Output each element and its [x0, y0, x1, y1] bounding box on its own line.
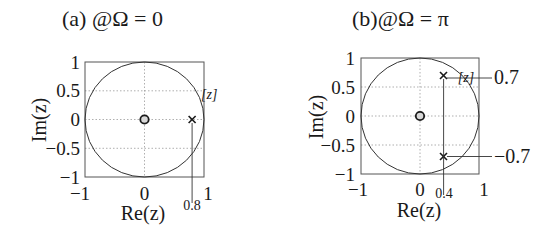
- svg-text:0: 0: [346, 106, 356, 127]
- panel-a-plot: [z] 1 0.5 0 −0.5 −1 −1 0 1 0.8 Re(z) Im(…: [28, 52, 217, 225]
- panel-a-ylabel: Im(z): [28, 98, 51, 142]
- svg-text:1: 1: [71, 52, 81, 73]
- panel-b-plot: [z] 0.7 −0.7 1 0.5 0 −0.5 −1 −1 0 1 0.4 …: [305, 48, 530, 222]
- panel-a-xlabel: Re(z): [121, 202, 165, 225]
- svg-text:0.5: 0.5: [56, 80, 80, 101]
- panel-b-pole-im-neg-annotation: −0.7: [494, 145, 530, 167]
- panel-b-xticks: −1 0 1: [348, 179, 489, 200]
- svg-text:0: 0: [71, 109, 81, 130]
- svg-text:−0.5: −0.5: [46, 138, 80, 159]
- svg-text:1: 1: [203, 183, 213, 204]
- panel-a-plane-label: [z]: [201, 87, 217, 102]
- panel-b-leader-lines: [444, 78, 492, 195]
- panel-b-pole-im-pos-annotation: 0.7: [494, 66, 519, 88]
- pole-zero-plots: [z] 1 0.5 0 −0.5 −1 −1 0 1 0.8 Re(z) Im(…: [0, 0, 541, 246]
- svg-text:0.5: 0.5: [331, 77, 355, 98]
- panel-a-yticks: 1 0.5 0 −0.5 −1: [46, 52, 80, 188]
- panel-b-ylabel: Im(z): [305, 95, 328, 139]
- panel-a-zero-marker: [140, 115, 148, 123]
- svg-text:1: 1: [346, 48, 356, 69]
- panel-b-pole-upper-marker: [440, 72, 447, 79]
- svg-text:1: 1: [479, 179, 489, 200]
- svg-text:−1: −1: [70, 183, 90, 204]
- panel-b-xlabel: Re(z): [397, 199, 441, 222]
- svg-text:0: 0: [415, 179, 425, 200]
- panel-b-zero-marker: [416, 112, 424, 120]
- panel-b-plane-label: [z]: [458, 70, 474, 85]
- svg-text:0: 0: [140, 183, 150, 204]
- svg-text:−1: −1: [348, 179, 368, 200]
- panel-a-pole-re-annotation: 0.8: [183, 198, 201, 213]
